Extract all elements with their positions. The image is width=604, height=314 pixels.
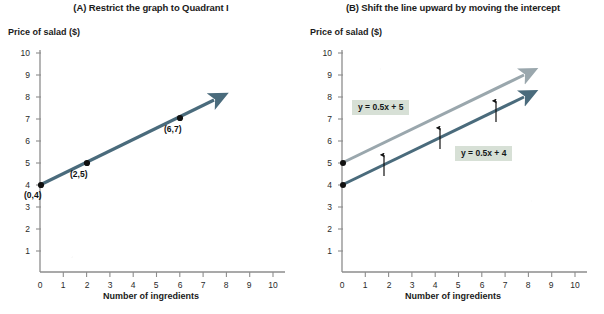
panel-a-xtick-0: 0: [34, 280, 46, 290]
panel-b-xtick-3: 3: [406, 280, 418, 290]
panel-b-ytick-2: 2: [316, 224, 332, 234]
panel-b-plot: [302, 0, 604, 314]
panel-a-xtick-3: 3: [104, 280, 116, 290]
panel-b-ytick-4: 4: [316, 180, 332, 190]
panel-b-xtick-10: 10: [568, 280, 582, 290]
panel-b-xtick-2: 2: [383, 280, 395, 290]
panel-b-xtick-9: 9: [545, 280, 557, 290]
panel-b-xtick-5: 5: [452, 280, 464, 290]
panel-a-ytick-9: 9: [14, 70, 30, 80]
panel-a-xtick-5: 5: [150, 280, 162, 290]
panel-b-x-axis-title: Number of ingredients: [302, 291, 604, 301]
data-point-0-5: [340, 160, 346, 166]
panel-a-line-series: [40, 100, 214, 185]
panel-b-ytick-7: 7: [316, 114, 332, 124]
panel-a-xtick-6: 6: [174, 280, 186, 290]
panel-b-ytick-10: 10: [316, 48, 332, 58]
panel-b-xtick-1: 1: [359, 280, 371, 290]
panel-a-plot: [0, 0, 302, 314]
data-point-6-7: [177, 115, 183, 121]
panel-a-ytick-5: 5: [14, 158, 30, 168]
panel-a-ytick-10: 10: [14, 48, 30, 58]
panel-a-xtick-9: 9: [243, 280, 255, 290]
panel-a-ytick-8: 8: [14, 92, 30, 102]
data-point-0-4: [38, 182, 44, 188]
panel-a-ytick-7: 7: [14, 114, 30, 124]
panel-a-xtick-1: 1: [57, 280, 69, 290]
panel-a-ytick-3: 3: [14, 202, 30, 212]
panel-b-ytick-9: 9: [316, 70, 332, 80]
panel-a-xtick-2: 2: [81, 280, 93, 290]
panel-b-ytick-6: 6: [316, 136, 332, 146]
panel-a-x-axis-title: Number of ingredients: [0, 291, 302, 301]
panel-b-axes: [338, 50, 587, 277]
panel-a-ytick-1: 1: [14, 246, 30, 256]
panel-b-xtick-8: 8: [522, 280, 534, 290]
panel-b-xtick-4: 4: [429, 280, 441, 290]
panel-a-ytick-2: 2: [14, 224, 30, 234]
panel-b-ytick-8: 8: [316, 92, 332, 102]
panel-b-ytick-5: 5: [316, 158, 332, 168]
panel-b-xtick-0: 0: [336, 280, 348, 290]
equation-label-upper: y = 0.5x + 5: [352, 100, 409, 115]
data-point-0-4: [340, 182, 346, 188]
panel-b: (B) Shift the line upward by moving the …: [302, 0, 604, 314]
panel-a-ytick-4: 4: [14, 180, 30, 190]
point-label-0-4: (0,4): [24, 190, 41, 200]
equation-label-lower: y = 0.5x + 4: [455, 146, 512, 161]
panel-a-ytick-6: 6: [14, 136, 30, 146]
panel-a-xtick-4: 4: [127, 280, 139, 290]
panel-b-ytick-3: 3: [316, 202, 332, 212]
panel-a: (A) Restrict the graph to Quadrant I Pri…: [0, 0, 302, 314]
panel-b-ytick-1: 1: [316, 246, 332, 256]
panel-a-xtick-8: 8: [220, 280, 232, 290]
panel-b-xtick-7: 7: [499, 280, 511, 290]
data-point-2-5: [84, 160, 90, 166]
panel-b-xtick-6: 6: [476, 280, 488, 290]
point-label-6-7: (6,7): [164, 124, 181, 134]
point-label-2-5: (2,5): [70, 169, 87, 179]
panel-a-xtick-7: 7: [197, 280, 209, 290]
panel-a-axes: [36, 50, 285, 277]
panel-a-xtick-10: 10: [266, 280, 280, 290]
figure-container: (A) Restrict the graph to Quadrant I Pri…: [0, 0, 604, 314]
